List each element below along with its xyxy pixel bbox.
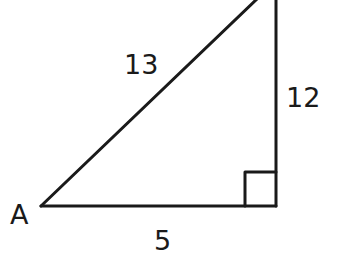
right-angle-marker xyxy=(245,172,276,206)
base-side-label: 5 xyxy=(154,225,171,256)
triangle-diagram: A 13 12 5 xyxy=(0,0,363,260)
hypotenuse-label: 13 xyxy=(124,49,158,80)
triangle xyxy=(41,0,276,206)
hypotenuse-line xyxy=(41,0,258,206)
vertex-label-a: A xyxy=(10,199,29,230)
vertical-side-label: 12 xyxy=(286,82,320,113)
